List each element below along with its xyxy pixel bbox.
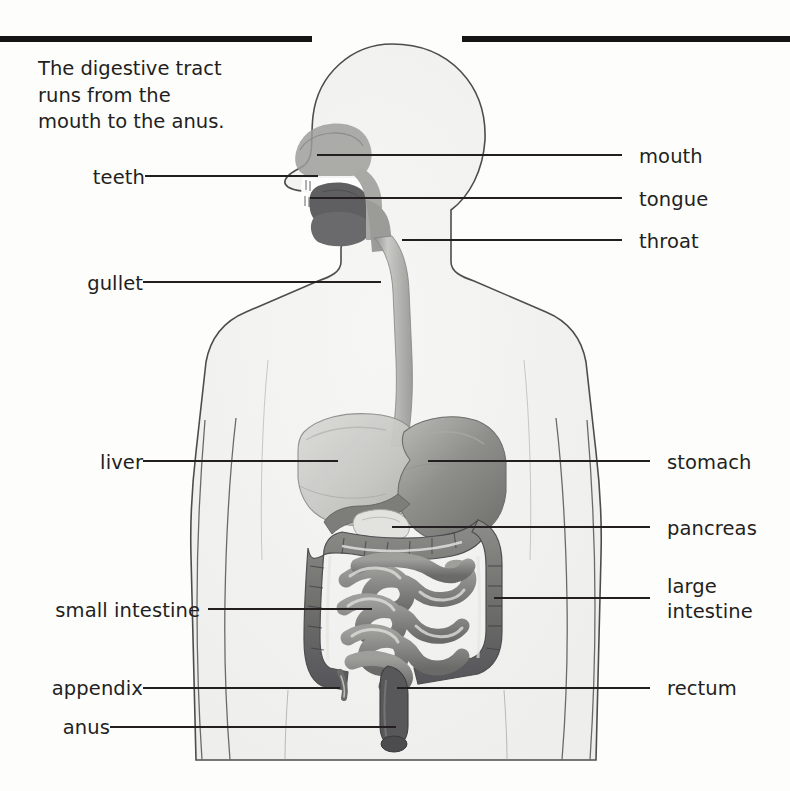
anus <box>381 736 407 752</box>
label-gullet[interactable]: gullet <box>17 271 143 296</box>
nasal-cavity <box>295 124 371 176</box>
label-liver[interactable]: liver <box>17 450 143 475</box>
label-tongue[interactable]: tongue <box>639 187 708 212</box>
label-teeth[interactable]: teeth <box>17 165 145 190</box>
rectum <box>380 666 408 746</box>
label-mouth[interactable]: mouth <box>639 144 703 169</box>
label-rectum[interactable]: rectum <box>667 676 737 701</box>
tongue <box>309 183 372 247</box>
diagram-page: The digestive tract runs from the mouth … <box>0 0 790 791</box>
label-large-intestine[interactable]: large intestine <box>667 574 753 624</box>
label-throat[interactable]: throat <box>639 229 699 254</box>
label-anus[interactable]: anus <box>17 715 110 740</box>
label-appendix[interactable]: appendix <box>17 676 143 701</box>
label-small-intestine[interactable]: small intestine <box>10 598 200 623</box>
label-stomach[interactable]: stomach <box>667 450 751 475</box>
caption-text: The digestive tract runs from the mouth … <box>38 56 300 136</box>
label-pancreas[interactable]: pancreas <box>667 516 757 541</box>
